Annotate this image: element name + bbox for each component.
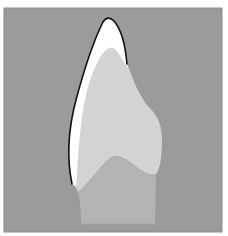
tooth-diagram bbox=[0, 0, 228, 236]
tooth-diagram-svg bbox=[0, 0, 228, 236]
